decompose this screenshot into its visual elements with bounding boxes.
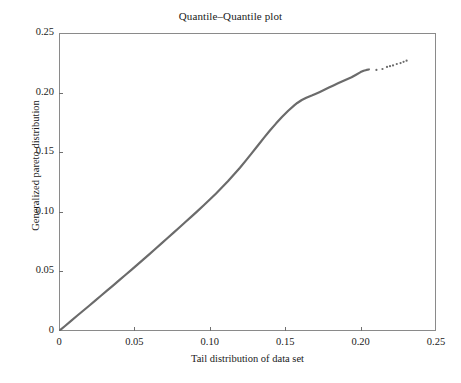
y-tick-label: 0 <box>18 324 54 335</box>
x-tick-label: 0.05 <box>112 336 156 347</box>
x-axis-label: Tail distribution of data set <box>59 353 436 364</box>
y-axis-label: Generalized pareto distribution <box>30 51 41 281</box>
plot-frame <box>59 33 436 331</box>
x-tick-mark <box>134 327 135 331</box>
x-tick-mark <box>361 327 362 331</box>
x-tick-mark <box>210 327 211 331</box>
x-tick-label: 0.15 <box>263 336 307 347</box>
x-tick-label: 0.25 <box>414 336 458 347</box>
x-tick-label: 0 <box>37 336 81 347</box>
y-tick-label: 0.25 <box>18 26 54 37</box>
chart-title: Quantile–Quantile plot <box>0 10 461 22</box>
y-tick-mark <box>59 93 63 94</box>
y-tick-mark <box>59 212 63 213</box>
x-tick-mark <box>285 327 286 331</box>
chart-page: Quantile–Quantile plot 00.050.100.150.20… <box>0 0 461 383</box>
y-tick-mark <box>59 152 63 153</box>
y-tick-mark <box>59 271 63 272</box>
x-tick-label: 0.20 <box>339 336 383 347</box>
x-tick-label: 0.10 <box>188 336 232 347</box>
